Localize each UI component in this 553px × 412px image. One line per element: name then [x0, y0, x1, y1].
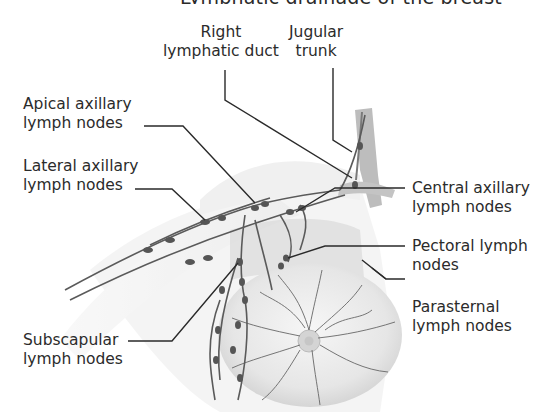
label-line: lymph nodes	[412, 317, 512, 336]
label-central-axillary-lymph-nodes: Central axillary lymph nodes	[412, 179, 530, 217]
label-pectoral-lymph-nodes: Pectoral lymph nodes	[412, 237, 528, 275]
label-line: lymph nodes	[23, 114, 132, 133]
breast	[218, 263, 402, 407]
label-line: Central axillary	[412, 179, 530, 198]
label-line: Right	[163, 23, 279, 42]
label-parasternal-lymph-nodes: Parasternal lymph nodes	[412, 298, 512, 336]
label-line: Apical axillary	[23, 95, 132, 114]
label-line: lymphatic duct	[163, 42, 279, 61]
label-subscapular-lymph-nodes: Subscapular lymph nodes	[23, 331, 123, 369]
label-line: trunk	[289, 42, 343, 61]
label-line: nodes	[412, 256, 528, 275]
label-line: Pectoral lymph	[412, 237, 528, 256]
label-line: Lateral axillary	[23, 157, 139, 176]
label-jugular-trunk: Jugular trunk	[289, 23, 343, 61]
label-line: Parasternal	[412, 298, 512, 317]
jugular-vessels	[338, 108, 395, 208]
label-line: lymph nodes	[23, 350, 123, 369]
label-line: Jugular	[289, 23, 343, 42]
label-apical-axillary-lymph-nodes: Apical axillary lymph nodes	[23, 95, 132, 133]
label-lateral-axillary-lymph-nodes: Lateral axillary lymph nodes	[23, 157, 139, 195]
label-line: lymph nodes	[412, 198, 530, 217]
label-line: Subscapular	[23, 331, 123, 350]
label-right-lymphatic-duct: Right lymphatic duct	[163, 23, 279, 61]
label-line: lymph nodes	[23, 176, 139, 195]
